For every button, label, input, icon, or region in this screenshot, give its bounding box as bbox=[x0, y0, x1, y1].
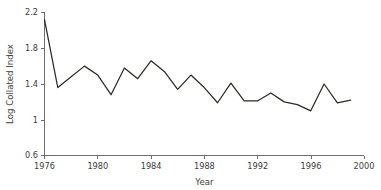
x-axis-tick-labels: 1976 1980 1984 1988 1992 1996 2000 bbox=[34, 161, 374, 171]
y-tick-label-2_2: 2.2 bbox=[25, 7, 38, 17]
y-tick-label-1_4: 1.4 bbox=[25, 79, 38, 89]
x-tick-label-1988: 1988 bbox=[194, 161, 215, 171]
x-axis-ticks bbox=[45, 156, 365, 160]
x-tick-label-1992: 1992 bbox=[247, 161, 268, 171]
x-tick-label-1980: 1980 bbox=[87, 161, 108, 171]
x-tick-label-1996: 1996 bbox=[301, 161, 322, 171]
y-axis-ticks bbox=[41, 13, 45, 156]
y-axis-title: Log Collated Index bbox=[5, 44, 15, 124]
data-series-line bbox=[45, 20, 351, 111]
y-axis-tick-labels: 2.2 1.8 1.4 1 0.6 bbox=[25, 7, 38, 160]
y-tick-label-1_8: 1.8 bbox=[25, 43, 38, 53]
y-tick-label-1: 1 bbox=[33, 115, 38, 125]
line-chart-plot: 2.2 1.8 1.4 1 0.6 1976 1980 1984 1988 19… bbox=[0, 0, 381, 190]
y-tick-label-0_6: 0.6 bbox=[25, 150, 38, 160]
x-tick-label-2000: 2000 bbox=[354, 161, 375, 171]
x-tick-label-1976: 1976 bbox=[34, 161, 55, 171]
x-axis-title: Year bbox=[194, 177, 214, 187]
x-tick-label-1984: 1984 bbox=[141, 161, 162, 171]
chart-container: 2.2 1.8 1.4 1 0.6 1976 1980 1984 1988 19… bbox=[0, 0, 381, 190]
